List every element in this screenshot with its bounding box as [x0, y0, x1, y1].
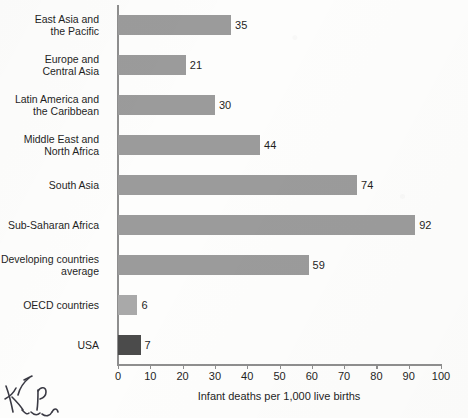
- bar: [118, 335, 141, 355]
- x-axis-tick-label: 80: [370, 370, 382, 382]
- bar: [118, 295, 137, 315]
- category-label: USA: [0, 325, 108, 365]
- bar-value-label: 35: [231, 15, 247, 35]
- bar: [118, 175, 357, 195]
- x-axis-tick-label: 30: [209, 370, 221, 382]
- bar-row: Developing countries average59: [0, 245, 468, 285]
- x-axis-tick-label: 100: [432, 370, 450, 382]
- x-axis-tick: [409, 364, 410, 369]
- x-axis-tick: [312, 364, 313, 369]
- bar: [118, 255, 309, 275]
- bar: [118, 95, 215, 115]
- bar-value-label: 21: [186, 55, 202, 75]
- infant-mortality-bar-chart: East Asia and the Pacific35Europe and Ce…: [0, 0, 468, 418]
- category-label: Developing countries average: [0, 245, 108, 285]
- bar-value-label: 92: [415, 215, 431, 235]
- bar-row: USA7: [0, 325, 468, 365]
- bar-value-label: 59: [309, 255, 325, 275]
- bar: [118, 15, 231, 35]
- bar-row: Sub-Saharan Africa92: [0, 205, 468, 245]
- category-label: Latin America and the Caribbean: [0, 85, 108, 125]
- plot-area: East Asia and the Pacific35Europe and Ce…: [0, 0, 468, 418]
- category-label: South Asia: [0, 165, 108, 205]
- bar-row: East Asia and the Pacific35: [0, 5, 468, 45]
- bar: [118, 135, 260, 155]
- category-label: East Asia and the Pacific: [0, 5, 108, 45]
- bar-value-label: 6: [137, 295, 147, 315]
- bar: [118, 55, 186, 75]
- x-axis-tick-label: 90: [403, 370, 415, 382]
- bar-row: South Asia74: [0, 165, 468, 205]
- bar-value-label: 74: [357, 175, 373, 195]
- bar-row: Latin America and the Caribbean30: [0, 85, 468, 125]
- x-axis-tick: [441, 364, 442, 369]
- category-label: Europe and Central Asia: [0, 45, 108, 85]
- x-axis-tick-label: 10: [144, 370, 156, 382]
- x-axis-tick: [183, 364, 184, 369]
- x-axis-tick: [376, 364, 377, 369]
- x-axis-tick: [118, 364, 119, 369]
- x-axis-tick-label: 60: [306, 370, 318, 382]
- bar-value-label: 44: [260, 135, 276, 155]
- x-axis-tick: [344, 364, 345, 369]
- handwritten-annotation: [2, 372, 76, 418]
- bar-value-label: 7: [141, 335, 151, 355]
- bar: [118, 215, 415, 235]
- x-axis-tick: [150, 364, 151, 369]
- bar-row: OECD countries6: [0, 285, 468, 325]
- category-label: OECD countries: [0, 285, 108, 325]
- x-axis-tick: [215, 364, 216, 369]
- bar-value-label: 30: [215, 95, 231, 115]
- x-axis-title: Infant deaths per 1,000 live births: [117, 390, 441, 402]
- category-label: Sub-Saharan Africa: [0, 205, 108, 245]
- category-label: Middle East and North Africa: [0, 125, 108, 165]
- bar-row: Europe and Central Asia21: [0, 45, 468, 85]
- x-axis-tick-label: 20: [176, 370, 188, 382]
- x-axis-tick-label: 70: [338, 370, 350, 382]
- x-axis-tick-label: 0: [115, 370, 121, 382]
- x-axis-tick-label: 50: [273, 370, 285, 382]
- bar-row: Middle East and North Africa44: [0, 125, 468, 165]
- x-axis-tick: [280, 364, 281, 369]
- x-axis-tick: [247, 364, 248, 369]
- x-axis-tick-label: 40: [241, 370, 253, 382]
